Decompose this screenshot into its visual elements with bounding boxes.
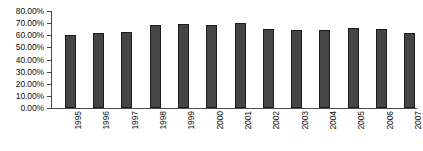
y-axis-tick-mark xyxy=(47,60,52,61)
bar xyxy=(206,25,217,108)
y-axis-tick-mark xyxy=(47,23,52,24)
bar xyxy=(178,24,189,108)
y-axis-tick-label: 0.00% xyxy=(20,104,44,113)
x-axis-tick-label: 2000 xyxy=(216,111,225,130)
y-axis-tick-mark xyxy=(47,11,52,12)
y-axis-tick-label: 20.00% xyxy=(16,80,44,89)
y-axis-tick-mark xyxy=(47,84,52,85)
x-axis-tick-label: 1996 xyxy=(102,111,111,130)
y-axis-tick-label: 40.00% xyxy=(16,55,44,64)
x-axis-tick-label: 2004 xyxy=(329,111,338,130)
x-axis-tick-label: 1999 xyxy=(187,111,196,130)
bar xyxy=(121,32,132,108)
bar xyxy=(404,33,415,108)
x-axis-tick-label: 1998 xyxy=(159,111,168,130)
bar xyxy=(348,28,359,108)
x-axis-tick-label: 2006 xyxy=(386,111,395,130)
y-axis-tick-mark xyxy=(47,35,52,36)
y-axis-tick-mark xyxy=(47,47,52,48)
y-axis-tick-label: 60.00% xyxy=(16,31,44,40)
bar-chart: 80.00%70.00%60.00%50.00%40.00%30.00%20.0… xyxy=(0,0,423,151)
x-axis-tick-label: 2007 xyxy=(414,111,423,130)
x-axis-line xyxy=(51,108,417,109)
x-axis-tick-label: 1995 xyxy=(74,111,83,130)
y-axis-tick-label: 80.00% xyxy=(16,7,44,16)
bar xyxy=(65,35,76,108)
y-axis: 80.00%70.00%60.00%50.00%40.00%30.00%20.0… xyxy=(0,0,48,118)
y-axis-tick-label: 30.00% xyxy=(16,67,44,76)
x-axis: 1995199619971998199920002001200220032004… xyxy=(52,111,420,151)
x-axis-tick-label: 2005 xyxy=(357,111,366,130)
plot-area xyxy=(52,11,420,108)
x-axis-tick-label: 1997 xyxy=(131,111,140,130)
bar xyxy=(93,33,104,108)
bar xyxy=(319,30,330,108)
bar xyxy=(291,30,302,108)
y-axis-tick-label: 50.00% xyxy=(16,43,44,52)
x-axis-tick-label: 2002 xyxy=(272,111,281,130)
x-axis-tick-label: 2001 xyxy=(244,111,253,130)
bar xyxy=(150,25,161,108)
bar xyxy=(376,29,387,108)
y-axis-tick-mark xyxy=(47,72,52,73)
bar xyxy=(235,23,246,108)
y-axis-tick-mark xyxy=(47,96,52,97)
y-axis-tick-label: 10.00% xyxy=(16,92,44,101)
y-axis-tick-label: 70.00% xyxy=(16,19,44,28)
x-axis-tick-label: 2003 xyxy=(301,111,310,130)
bar xyxy=(263,29,274,108)
y-axis-tick-mark xyxy=(47,108,52,109)
